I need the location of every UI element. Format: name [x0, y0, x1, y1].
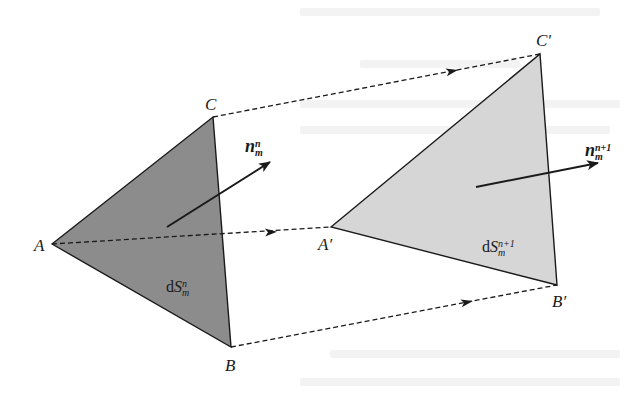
- vertex-label-a: A: [34, 237, 44, 254]
- normal-vector-n-plus-1-label: nn+1m: [585, 141, 611, 161]
- differential-d: d: [482, 238, 490, 255]
- vector-symbol: n: [585, 140, 595, 160]
- vertex-label-b-prime: B′: [552, 293, 566, 310]
- vertex-label-c: C: [205, 96, 216, 113]
- arrowhead-icon: [265, 228, 277, 237]
- differential-d: d: [166, 278, 174, 295]
- vertex-label-b: B: [225, 357, 235, 374]
- vector-indices: nm: [255, 139, 263, 157]
- area-label-ds-n-plus-1: dSn+1m: [482, 239, 515, 257]
- normal-vector-n-label: nnm: [245, 137, 263, 157]
- subscript: m: [255, 148, 263, 157]
- vertex-label-c-prime: C′: [536, 32, 551, 49]
- subscript: m: [182, 288, 189, 297]
- subscript: m: [595, 152, 611, 161]
- vertex-label-a-prime: A′: [318, 236, 332, 253]
- area-symbol: S: [490, 238, 498, 255]
- diagram-canvas: [0, 0, 632, 398]
- vector-indices: n+1m: [595, 143, 611, 161]
- area-indices: nm: [182, 279, 189, 297]
- vector-symbol: n: [245, 136, 255, 156]
- subscript: m: [498, 248, 515, 257]
- area-symbol: S: [174, 278, 182, 295]
- triangle-abc: [52, 117, 231, 347]
- displacement-line-b: [231, 285, 557, 347]
- arrowhead-icon: [460, 297, 473, 307]
- triangle-a-prime-b-prime-c-prime: [331, 54, 557, 285]
- arrowhead-icon: [445, 66, 458, 76]
- area-label-ds-n: dSnm: [166, 279, 189, 297]
- area-indices: n+1m: [498, 239, 515, 257]
